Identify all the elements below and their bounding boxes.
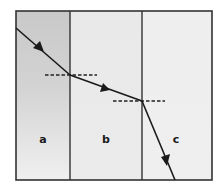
region-b [70,11,142,180]
region-label-a: a [39,133,46,146]
region-label-b: b [102,133,110,146]
refraction-diagram: a b c [0,0,221,194]
region-a [16,11,70,180]
region-c [142,11,212,180]
region-label-c: c [173,133,180,146]
